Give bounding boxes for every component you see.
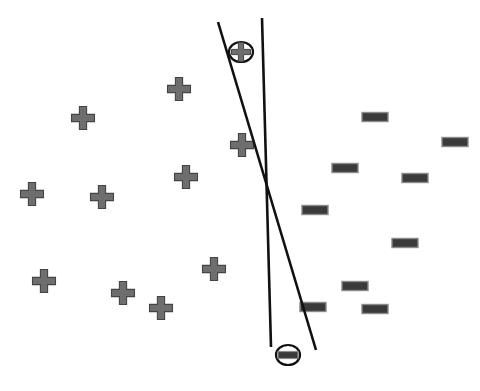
scatter-plot-canvas — [0, 0, 480, 391]
plus-marker — [150, 297, 173, 320]
plus-marker — [72, 107, 95, 130]
boundary-line-2 — [262, 18, 271, 347]
minus-marker — [362, 305, 388, 314]
plus-marker — [168, 78, 191, 101]
figure-container — [0, 0, 480, 391]
minus-marker — [442, 138, 468, 147]
plus-marker — [91, 186, 114, 209]
minus-marker — [342, 282, 368, 291]
minus-marker — [332, 164, 358, 173]
negative-marker-group — [300, 113, 468, 314]
plus-marker — [112, 282, 135, 305]
plus-marker — [203, 258, 226, 281]
plus-marker — [231, 134, 254, 157]
minus-marker — [392, 239, 418, 248]
plus-marker — [21, 183, 44, 206]
minus-marker — [402, 174, 428, 183]
minus-marker — [362, 113, 388, 122]
positive-marker-group — [21, 78, 254, 320]
decision-boundary-group — [218, 18, 316, 350]
minus-marker — [302, 206, 328, 215]
circled-minus-marker — [278, 352, 298, 359]
plus-marker — [33, 270, 56, 293]
plus-marker — [175, 166, 198, 189]
